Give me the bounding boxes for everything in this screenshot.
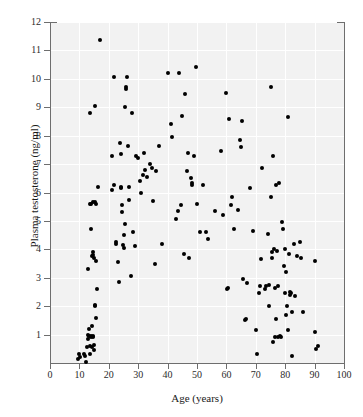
- data-point: [267, 283, 271, 287]
- data-point: [110, 188, 114, 192]
- data-point: [116, 260, 120, 264]
- data-point: [226, 286, 230, 290]
- data-point: [192, 154, 196, 158]
- data-point: [269, 85, 273, 89]
- frame-top-right-stub: [337, 22, 344, 23]
- y-tick-mark: [44, 79, 50, 80]
- data-point: [269, 195, 273, 199]
- data-point: [90, 324, 94, 328]
- x-tick-label: 80: [273, 370, 297, 380]
- y-tick-mark: [44, 136, 50, 137]
- data-point: [186, 151, 190, 155]
- data-point: [157, 144, 161, 148]
- data-point: [169, 122, 173, 126]
- frame-right-line: [344, 22, 345, 363]
- data-point: [122, 246, 126, 250]
- data-point: [166, 71, 170, 75]
- data-point: [270, 256, 274, 260]
- data-point: [276, 284, 280, 288]
- data-point: [119, 152, 123, 156]
- y-axis-line: [50, 22, 51, 363]
- gridline-horizontal: [50, 22, 344, 23]
- data-point: [126, 144, 130, 148]
- data-point: [127, 185, 131, 189]
- data-point: [112, 183, 116, 187]
- y-tick-mark: [44, 306, 50, 307]
- x-tick-label: 90: [303, 370, 327, 380]
- gridline-horizontal: [50, 193, 344, 194]
- data-point: [286, 328, 290, 332]
- data-point: [176, 209, 180, 213]
- y-tick-mark: [44, 249, 50, 250]
- scatter-plot-figure: 123456789101112 0102030405060708090100 A…: [0, 0, 363, 417]
- y-tick-mark: [44, 164, 50, 165]
- data-point: [227, 117, 231, 121]
- y-tick-mark: [44, 278, 50, 279]
- data-point: [236, 208, 240, 212]
- data-point: [251, 229, 255, 233]
- data-point: [94, 202, 98, 206]
- x-tick-label: 100: [332, 370, 356, 380]
- data-point: [275, 249, 279, 253]
- x-tick-label: 10: [67, 370, 91, 380]
- data-point: [110, 154, 114, 158]
- data-point: [88, 111, 92, 115]
- data-point: [96, 185, 100, 189]
- data-point: [284, 270, 288, 274]
- data-point: [142, 151, 146, 155]
- data-point: [238, 138, 242, 142]
- data-point: [301, 310, 305, 314]
- data-point: [271, 340, 275, 344]
- data-point: [266, 232, 270, 236]
- x-axis-label: Age (years): [50, 392, 344, 404]
- y-tick-mark: [44, 193, 50, 194]
- data-point: [92, 348, 96, 352]
- data-point: [91, 334, 95, 338]
- frame-top-left-stub: [50, 22, 57, 23]
- gridline-horizontal: [50, 164, 344, 165]
- data-point: [313, 330, 317, 334]
- data-point: [277, 181, 281, 185]
- data-point: [292, 242, 296, 246]
- plot-area: [50, 22, 344, 363]
- data-point: [287, 252, 291, 256]
- data-point: [299, 256, 303, 260]
- data-point: [145, 175, 149, 179]
- data-point: [316, 344, 320, 348]
- data-point: [129, 274, 133, 278]
- y-tick-mark: [44, 335, 50, 336]
- x-tick-label: 40: [156, 370, 180, 380]
- y-tick-mark: [44, 221, 50, 222]
- y-tick-label: 1: [21, 330, 41, 340]
- x-tick-label: 20: [97, 370, 121, 380]
- data-point: [139, 191, 143, 195]
- y-tick-mark: [44, 22, 50, 23]
- x-tick-label: 50: [185, 370, 209, 380]
- data-point: [118, 141, 122, 145]
- gridline-horizontal: [50, 136, 344, 137]
- data-point: [153, 262, 157, 266]
- data-point: [151, 199, 155, 203]
- y-tick-mark: [44, 107, 50, 108]
- data-point: [93, 104, 97, 108]
- y-axis-label: Plasma testosterone (ng/ml): [28, 46, 40, 326]
- data-point: [213, 209, 217, 213]
- gridline-horizontal: [50, 79, 344, 80]
- x-tick-label: 0: [38, 370, 62, 380]
- gridline-horizontal: [50, 221, 344, 222]
- data-point: [259, 257, 263, 261]
- data-point: [195, 202, 199, 206]
- gridline-horizontal: [50, 50, 344, 51]
- data-point: [160, 242, 164, 246]
- data-point: [154, 169, 158, 173]
- data-point: [244, 317, 248, 321]
- data-point: [290, 310, 294, 314]
- data-point: [94, 259, 98, 263]
- x-tick-label: 70: [244, 370, 268, 380]
- data-point: [274, 317, 278, 321]
- x-tick-label: 30: [126, 370, 150, 380]
- y-tick-label: 12: [21, 17, 41, 27]
- y-tick-mark: [44, 50, 50, 51]
- data-point: [94, 316, 98, 320]
- data-point: [219, 149, 223, 153]
